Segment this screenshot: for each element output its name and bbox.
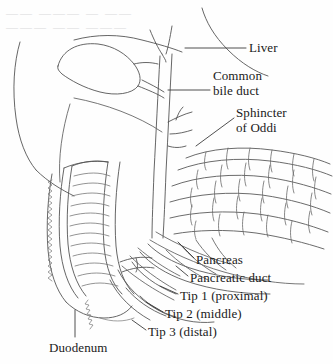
label-pancreas: Pancreas <box>196 253 243 267</box>
liver-inferior-border <box>59 98 162 182</box>
label-sphincter-of-oddi: Sphincter of Oddi <box>236 105 328 135</box>
cystic-duct <box>138 80 164 98</box>
label-tip-1: Tip 1 (proximal) <box>180 289 268 303</box>
label-tip-3: Tip 3 (distal) <box>148 325 217 339</box>
label-tip-2: Tip 2 (middle) <box>165 307 242 321</box>
sphincter-of-oddi <box>168 107 192 148</box>
duodenum-lower-ridge <box>85 300 134 329</box>
label-liver: Liver <box>249 41 278 55</box>
label-sphincter-line2: of Oddi <box>236 120 277 135</box>
leader-tip3 <box>132 320 146 330</box>
label-common-bile-duct-line1: Common <box>213 68 262 83</box>
anatomical-figure: —— ——— — —— ——— —— ——— <box>0 0 333 364</box>
label-pancreatic-duct: Pancreatic duct <box>190 271 271 285</box>
label-common-bile-duct: Common bile duct <box>213 68 299 98</box>
hepatic-duct <box>150 26 172 62</box>
label-common-bile-duct-line2: bile duct <box>213 83 259 98</box>
leader-sphincter <box>196 118 234 146</box>
liver-outline <box>14 8 268 196</box>
duodenum-outline <box>47 161 134 318</box>
ampulla-of-vater <box>120 257 154 272</box>
label-duodenum: Duodenum <box>49 341 108 355</box>
duodenum-mucosal-folds <box>70 173 118 286</box>
label-sphincter-line1: Sphincter <box>236 105 287 120</box>
gallbladder-outline <box>58 44 158 94</box>
